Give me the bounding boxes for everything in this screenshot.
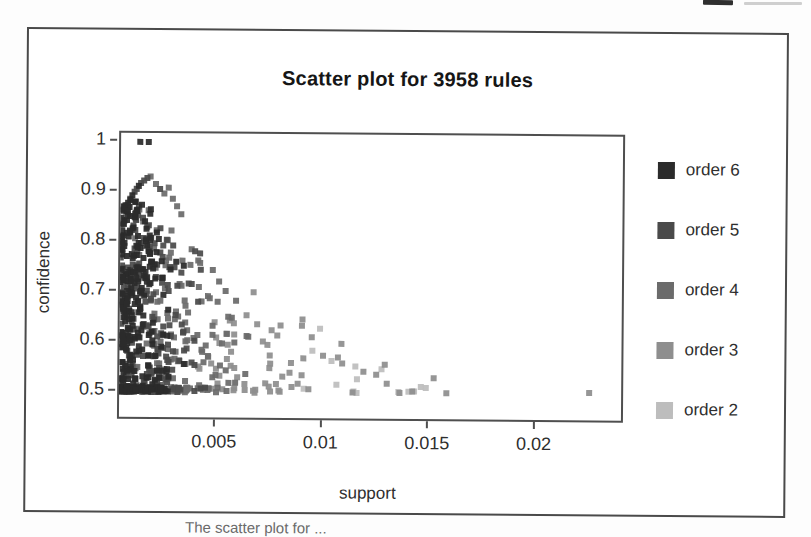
legend-item-label: order 2: [684, 400, 738, 420]
legend-swatch-icon: [657, 221, 674, 238]
legend-swatch-icon: [656, 341, 673, 358]
legend-item: order 5: [657, 220, 739, 241]
y-tick-label: 0.8: [53, 228, 105, 249]
y-tick-label: 0.6: [52, 328, 104, 349]
scan-artifact-faint: [744, 2, 802, 5]
legend-swatch-icon: [658, 161, 675, 178]
legend-item: order 2: [656, 400, 738, 421]
x-tick-label: 0.01: [288, 432, 352, 454]
legend-item: order 4: [657, 280, 739, 301]
legend-item-label: order 3: [684, 340, 738, 360]
x-tick-label: 0.015: [395, 433, 459, 455]
x-tick-mark: [213, 419, 215, 426]
scan-artifact-dark: [703, 0, 733, 5]
x-axis-label: support: [116, 482, 618, 506]
x-tick-label: 0.02: [501, 434, 565, 456]
x-tick-label: 0.005: [182, 431, 246, 453]
figure-box: Scatter plot for 3958 rules confidence s…: [23, 27, 789, 518]
legend-item-label: order 4: [685, 280, 739, 300]
legend-item: order 6: [658, 160, 740, 181]
y-tick-label: 0.7: [53, 278, 105, 299]
y-tick-mark: [109, 339, 116, 341]
plot-area: [117, 131, 625, 423]
x-tick-mark: [319, 420, 321, 427]
y-tick-label: 0.9: [54, 178, 106, 199]
y-tick-mark: [110, 189, 117, 191]
x-tick-mark: [533, 422, 535, 429]
y-axis-label: confidence: [33, 130, 55, 414]
figure-caption: The scatter plot for ...: [185, 519, 327, 537]
chart-title: Scatter plot for 3958 rules: [29, 65, 787, 94]
y-tick-mark: [108, 389, 115, 391]
scatter-points-layer: [119, 133, 623, 421]
legend-item: order 3: [656, 340, 738, 361]
legend-swatch-icon: [657, 281, 674, 298]
y-tick-label: 0.5: [52, 378, 104, 399]
x-tick-mark: [426, 421, 428, 428]
y-tick-label: 1: [54, 128, 106, 149]
y-tick-mark: [109, 239, 116, 241]
legend-swatch-icon: [656, 401, 673, 418]
legend-item-label: order 6: [686, 160, 740, 180]
y-tick-mark: [110, 139, 117, 141]
legend-item-label: order 5: [685, 220, 739, 240]
legend: order 6 order 5 order 4 order 3 order 2: [656, 160, 740, 421]
y-tick-mark: [109, 289, 116, 291]
